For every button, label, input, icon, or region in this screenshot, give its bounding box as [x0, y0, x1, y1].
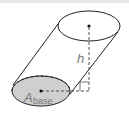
area-subscript: base [33, 96, 53, 106]
area-label: A [23, 90, 33, 105]
right-angle-marker [80, 82, 89, 91]
bottom-center-point [39, 89, 42, 92]
oblique-cylinder-diagram: h A base [0, 0, 129, 118]
height-label: h [77, 51, 84, 66]
